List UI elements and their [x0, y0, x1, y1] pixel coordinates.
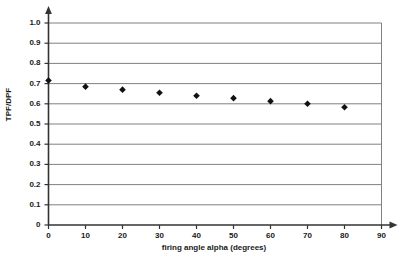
plot-area [0, 0, 403, 265]
y-axis-arrowhead-icon [45, 6, 52, 14]
x-axis-arrowhead-icon [390, 222, 398, 229]
scatter-chart: TPF/DPF firing angle alpha (degrees) 00.… [0, 0, 403, 265]
